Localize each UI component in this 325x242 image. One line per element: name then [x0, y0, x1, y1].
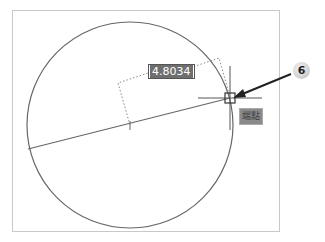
callout-arrow — [240, 74, 291, 95]
radius-line — [28, 98, 230, 149]
drawing-canvas — [0, 0, 325, 242]
dimension-extension-line — [118, 73, 148, 125]
snap-tooltip: 端點 — [239, 108, 263, 125]
dimension-input-box[interactable]: 4.8034 — [148, 64, 195, 79]
dimension-value: 4.8034 — [150, 65, 193, 78]
callout-number-badge: 6 — [293, 62, 310, 79]
